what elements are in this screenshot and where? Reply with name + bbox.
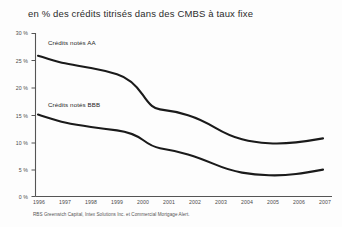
y-tick-label-30: 30 %: [8, 30, 28, 36]
x-tick-label-1996: 1996: [26, 199, 52, 205]
y-tick-label-10: 10 %: [8, 140, 28, 146]
chart-plot-area: [0, 0, 342, 227]
source-note: RBS Greenwich Capital, Intex Solutions I…: [33, 212, 190, 217]
x-tick-label-2004: 2004: [234, 199, 260, 205]
y-tick-marks: [32, 34, 36, 197]
x-tick-label-1999: 1999: [104, 199, 130, 205]
y-tick-label-0: 0 %: [8, 194, 28, 200]
x-tick-label-2003: 2003: [208, 199, 234, 205]
y-tick-label-20: 20 %: [8, 85, 28, 91]
x-tick-label-2001: 2001: [156, 199, 182, 205]
series-label-bbb: Crédits notés BBB: [48, 101, 100, 108]
series-label-aa: Crédits notés AA: [48, 39, 96, 46]
x-tick-label-1997: 1997: [52, 199, 78, 205]
series-line-aa: [38, 56, 323, 144]
x-tick-label-2000: 2000: [130, 199, 156, 205]
x-tick-label-2007: 2007: [312, 199, 338, 205]
y-tick-label-5: 5 %: [8, 167, 28, 173]
x-tick-label-1998: 1998: [78, 199, 104, 205]
series-line-bbb: [38, 115, 323, 176]
x-tick-label-2006: 2006: [286, 199, 312, 205]
y-tick-label-15: 15 %: [8, 113, 28, 119]
y-tick-label-25: 25 %: [8, 58, 28, 64]
chart-figure: en % des crédits titrisés dans des CMBS …: [0, 0, 342, 227]
x-tick-label-2005: 2005: [260, 199, 286, 205]
x-tick-label-2002: 2002: [182, 199, 208, 205]
